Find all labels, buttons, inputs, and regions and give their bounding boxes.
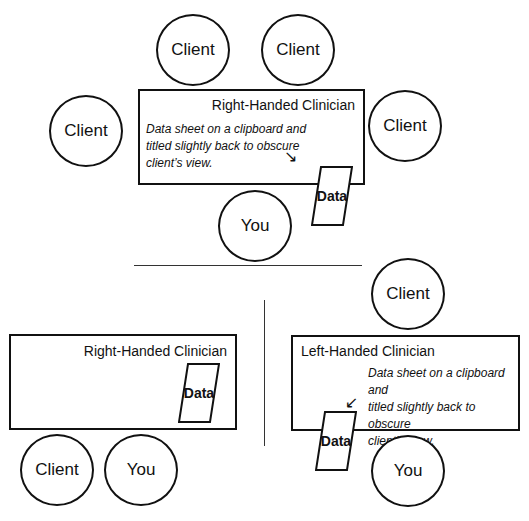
data-sheet-label: Data <box>311 166 353 226</box>
horizontal-divider <box>134 265 362 266</box>
client-seat-right: Client <box>368 90 442 162</box>
client-label: Client <box>386 284 429 304</box>
table-title: Right-Handed Clinician <box>212 97 355 113</box>
client-seat: Client <box>20 434 94 506</box>
arrow-down-right-icon: ↘ <box>284 149 297 165</box>
data-sheet-clipboard: Data <box>311 166 353 226</box>
client-seat-top-left: Client <box>156 14 230 86</box>
table-title: Left-Handed Clinician <box>301 343 435 359</box>
you-label: You <box>127 460 156 480</box>
data-sheet-clipboard: Data <box>315 411 357 471</box>
client-label: Client <box>276 40 319 60</box>
you-seat: You <box>218 190 292 262</box>
client-label: Client <box>64 121 107 141</box>
data-sheet-label: Data <box>178 363 220 423</box>
client-label: Client <box>35 460 78 480</box>
clipboard-note: Data sheet on a clipboard and titled sli… <box>368 365 518 450</box>
you-seat: You <box>104 434 178 506</box>
table-title: Right-Handed Clinician <box>84 343 227 359</box>
client-seat-top-right: Client <box>261 14 335 86</box>
data-sheet-clipboard: Data <box>178 363 220 423</box>
you-label: You <box>394 461 423 481</box>
arrow-down-left-icon: ↙ <box>345 395 358 411</box>
client-label: Client <box>383 116 426 136</box>
vertical-divider <box>264 300 265 446</box>
client-seat-left: Client <box>49 95 123 167</box>
data-sheet-label: Data <box>315 411 357 471</box>
client-seat: Client <box>371 258 445 330</box>
clipboard-note: Data sheet on a clipboard and titled sli… <box>146 121 306 172</box>
you-label: You <box>241 216 270 236</box>
client-label: Client <box>171 40 214 60</box>
you-seat: You <box>371 435 445 507</box>
